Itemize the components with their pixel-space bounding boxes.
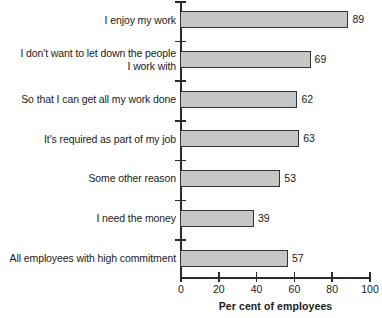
category-label-line: I need the money	[96, 212, 176, 225]
bar-row: Some other reason53	[0, 159, 382, 199]
bar-value-label: 39	[258, 213, 270, 224]
x-tick	[331, 272, 333, 282]
bar-row: So that I can get all my work done62	[0, 79, 382, 119]
x-tick-label: 100	[361, 284, 379, 295]
category-tick	[175, 80, 186, 82]
bar-and-value: 62	[181, 79, 382, 119]
bar-and-value: 53	[181, 159, 382, 199]
bar	[180, 130, 299, 147]
bar-value-label: 69	[315, 54, 327, 65]
category-label-line: So that I can get all my work done	[21, 93, 176, 106]
bar-row: I need the money39	[0, 199, 382, 239]
category-label: Some other reason	[0, 159, 176, 199]
category-label-line: I don't want to let down the people	[20, 47, 176, 60]
bar-and-value: 69	[181, 40, 382, 80]
category-label: I don't want to let down the peopleI wor…	[0, 40, 176, 80]
category-label: I need the money	[0, 199, 176, 239]
x-tick-label: 40	[251, 284, 263, 295]
bar	[180, 51, 310, 68]
bar	[180, 210, 254, 227]
category-tick	[175, 41, 186, 43]
bar-and-value: 63	[181, 119, 382, 159]
category-label-line: Some other reason	[88, 172, 176, 185]
category-label: So that I can get all my work done	[0, 79, 176, 119]
category-label-line: It's required as part of my job	[44, 133, 176, 146]
category-tick	[175, 160, 186, 162]
bar-row: I don't want to let down the peopleI wor…	[0, 40, 382, 80]
bar	[180, 170, 280, 187]
x-tick-label: 20	[213, 284, 225, 295]
x-tick-label: 0	[178, 284, 184, 295]
bar-value-label: 62	[301, 94, 313, 105]
bar	[180, 250, 288, 267]
x-tick	[369, 272, 371, 282]
category-label-line: All employees with high commitment	[10, 252, 176, 265]
bar-and-value: 39	[181, 199, 382, 239]
category-tick	[175, 120, 186, 122]
x-tick	[294, 272, 296, 282]
category-label: I enjoy my work	[0, 0, 176, 40]
bar-chart: I enjoy my work89I don't want to let dow…	[0, 0, 382, 318]
bar-value-label: 63	[303, 133, 315, 144]
bar-row: I enjoy my work89	[0, 0, 382, 40]
x-tick-label: 80	[326, 284, 338, 295]
x-tick	[256, 272, 258, 282]
bar	[180, 91, 297, 108]
bar-row: All employees with high commitment57	[0, 238, 382, 278]
category-label-line: I enjoy my work	[105, 14, 176, 27]
x-axis-title: Per cent of employees	[181, 300, 370, 312]
bar-and-value: 89	[181, 0, 382, 40]
category-tick	[175, 239, 186, 241]
category-label: It's required as part of my job	[0, 119, 176, 159]
bar	[180, 11, 348, 28]
x-tick	[218, 272, 220, 282]
category-tick	[175, 200, 186, 202]
bar-and-value: 57	[181, 238, 382, 278]
category-label: All employees with high commitment	[0, 238, 176, 278]
category-label-line: I work with	[128, 60, 177, 73]
category-tick	[175, 1, 186, 3]
bar-row: It's required as part of my job63	[0, 119, 382, 159]
x-tick	[180, 272, 182, 282]
x-tick-label: 60	[289, 284, 301, 295]
bar-value-label: 57	[292, 253, 304, 264]
bar-value-label: 53	[284, 173, 296, 184]
bar-value-label: 89	[352, 14, 364, 25]
